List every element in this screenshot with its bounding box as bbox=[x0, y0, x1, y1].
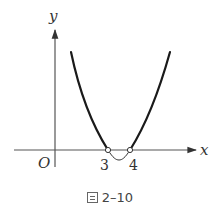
parabola-vertex-segment bbox=[108, 150, 130, 160]
figure-glyph-icon bbox=[87, 192, 98, 203]
figure-caption: 2–10 bbox=[0, 190, 220, 205]
tick-label-3: 3 bbox=[100, 157, 109, 173]
y-axis-label: y bbox=[48, 7, 58, 25]
caption-number: 2–10 bbox=[102, 190, 133, 205]
root-point-3 bbox=[105, 147, 110, 152]
origin-label: O bbox=[38, 154, 50, 172]
parabola-curve bbox=[71, 52, 170, 150]
x-axis-label: x bbox=[200, 141, 209, 159]
parabola-diagram: y x O 3 4 bbox=[0, 0, 220, 190]
root-point-4 bbox=[127, 147, 132, 152]
tick-label-4: 4 bbox=[129, 157, 138, 173]
